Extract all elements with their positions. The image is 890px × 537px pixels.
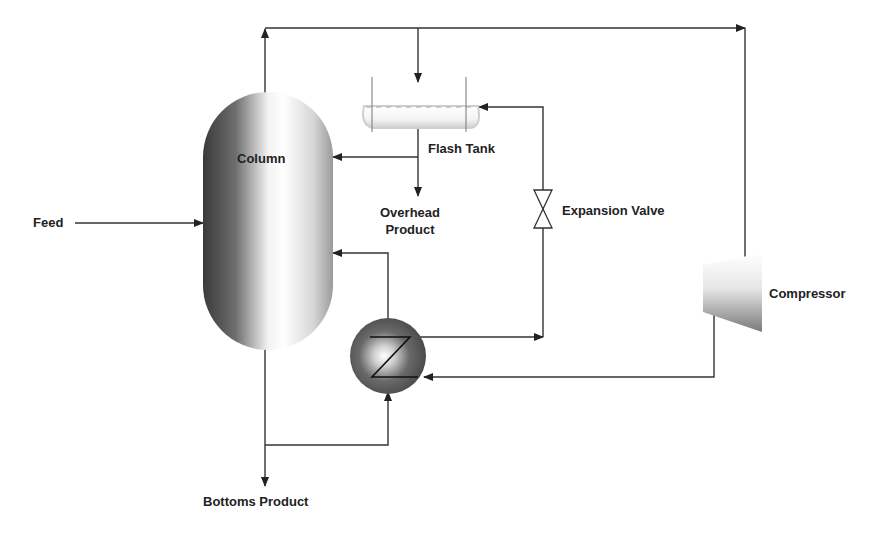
compressor[interactable] bbox=[703, 253, 762, 332]
column-vessel[interactable] bbox=[203, 92, 333, 350]
compressor-label: Compressor bbox=[769, 286, 846, 302]
heat-exchanger[interactable] bbox=[350, 318, 426, 394]
column-label: Column bbox=[237, 151, 285, 167]
expansion-valve-label: Expansion Valve bbox=[562, 203, 665, 219]
boilup-line bbox=[333, 253, 388, 318]
overhead-product-label-2: Product bbox=[385, 222, 434, 238]
bottoms-to-hx-line bbox=[265, 392, 388, 445]
flash-tank[interactable] bbox=[363, 77, 479, 132]
bottoms-product-label: Bottoms Product bbox=[203, 494, 308, 510]
feed-label: Feed bbox=[33, 215, 63, 231]
process-flow-diagram bbox=[0, 0, 890, 537]
compressor-to-hx-line bbox=[424, 292, 714, 377]
expansion-valve[interactable] bbox=[534, 190, 552, 228]
overhead-product-label-1: Overhead bbox=[380, 205, 440, 221]
flash-tank-label: Flash Tank bbox=[428, 141, 495, 157]
